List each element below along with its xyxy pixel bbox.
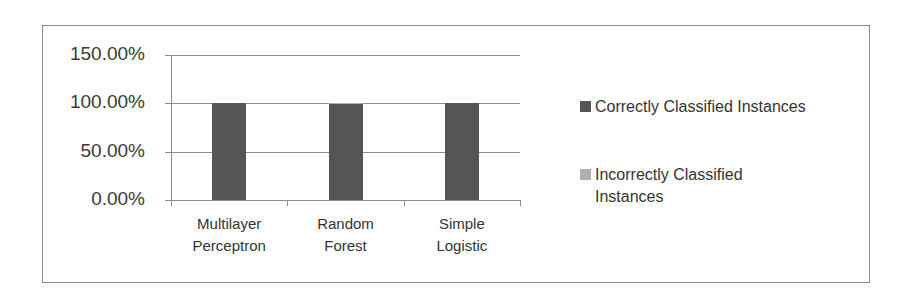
legend-swatch — [580, 169, 591, 180]
legend-item: Correctly Classified Instances — [580, 96, 806, 118]
y-tick-label: 50.00% — [25, 140, 145, 162]
gridline — [165, 200, 520, 201]
y-tick-label: 0.00% — [25, 188, 145, 210]
gridline — [165, 55, 520, 56]
x-category-label: SimpleLogistic — [402, 213, 522, 257]
legend-swatch — [580, 101, 591, 112]
y-tick-label: 100.00% — [25, 91, 145, 113]
x-category-label: RandomForest — [286, 213, 406, 257]
y-axis — [171, 55, 172, 206]
y-tick-label: 150.00% — [25, 43, 145, 65]
x-category-label: MultilayerPerceptron — [169, 213, 289, 257]
bar-correct — [329, 104, 363, 200]
bar-correct — [212, 103, 246, 200]
x-tick — [520, 200, 521, 206]
x-tick — [404, 200, 405, 206]
legend-item: Incorrectly ClassifiedInstances — [580, 164, 743, 208]
x-tick — [287, 200, 288, 206]
bar-correct — [445, 103, 479, 200]
